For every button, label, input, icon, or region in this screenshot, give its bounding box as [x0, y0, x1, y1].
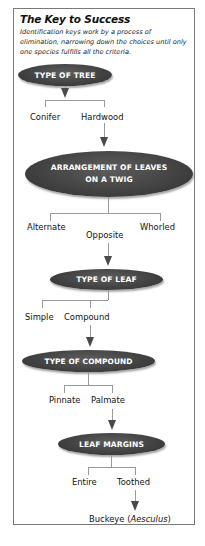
- option-compound: Compound: [64, 312, 110, 322]
- connector-line: [50, 213, 160, 214]
- option-hardwood: Hardwood: [81, 112, 123, 122]
- arrow-down-icon: [104, 256, 112, 266]
- connector-line: [42, 300, 43, 308]
- connector-line: [64, 385, 112, 386]
- option-toothed: Toothed: [117, 477, 150, 487]
- connector-line: [90, 300, 91, 308]
- option-entire: Entire: [72, 477, 97, 487]
- node-type-of-tree-label: TYPE OF TREE: [35, 71, 96, 80]
- connector-line: [108, 197, 109, 213]
- arrow-down-icon: [86, 337, 94, 347]
- node-arrangement-of-leaves: ARRANGEMENT OF LEAVES ON A TWIG: [25, 151, 193, 197]
- connector-line: [88, 467, 135, 468]
- option-alternate: Alternate: [27, 222, 66, 232]
- node-type-of-compound: TYPE OF COMPOUND: [22, 350, 155, 372]
- connector-line: [88, 467, 89, 475]
- diagram-description: Identification keys work by a process of…: [20, 27, 192, 57]
- option-conifer: Conifer: [30, 112, 60, 122]
- result-genus: Aesculus: [130, 514, 167, 524]
- connector-line: [135, 467, 136, 475]
- connector-line: [160, 213, 161, 221]
- connector-line: [45, 100, 46, 107]
- connector-line: [111, 455, 112, 467]
- node-type-of-compound-label: TYPE OF COMPOUND: [44, 357, 132, 366]
- diagram-title: The Key to Success: [20, 13, 130, 25]
- result-species: Buckeye (Aesculus): [89, 514, 171, 524]
- result-close-paren: ): [168, 514, 171, 524]
- connector-line: [88, 372, 89, 385]
- connector-line: [42, 300, 108, 301]
- arrow-down-icon: [100, 137, 108, 147]
- option-whorled: Whorled: [140, 222, 175, 232]
- connector-line: [112, 385, 113, 393]
- arrow-down-icon: [108, 420, 116, 430]
- connector-line: [45, 100, 104, 101]
- option-opposite: Opposite: [86, 230, 123, 240]
- arrow-down-icon: [61, 88, 69, 98]
- connector-line: [108, 290, 109, 300]
- option-simple: Simple: [25, 312, 54, 322]
- connector-line: [104, 100, 105, 107]
- node-arrangement-label-line1: ARRANGEMENT OF LEAVES: [51, 162, 167, 174]
- connector-line: [64, 385, 65, 393]
- node-type-of-tree: TYPE OF TREE: [18, 64, 112, 86]
- connector-line: [50, 213, 51, 221]
- arrow-down-icon: [131, 501, 139, 511]
- node-arrangement-label-line2: ON A TWIG: [85, 174, 133, 186]
- option-palmate: Palmate: [91, 395, 125, 405]
- node-leaf-margins-label: LEAF MARGINS: [79, 440, 144, 449]
- option-pinnate: Pinnate: [49, 395, 80, 405]
- result-common-name: Buckeye (: [89, 514, 130, 524]
- node-type-of-leaf: TYPE OF LEAF: [50, 269, 163, 290]
- node-leaf-margins: LEAF MARGINS: [58, 433, 165, 455]
- node-type-of-leaf-label: TYPE OF LEAF: [76, 275, 137, 284]
